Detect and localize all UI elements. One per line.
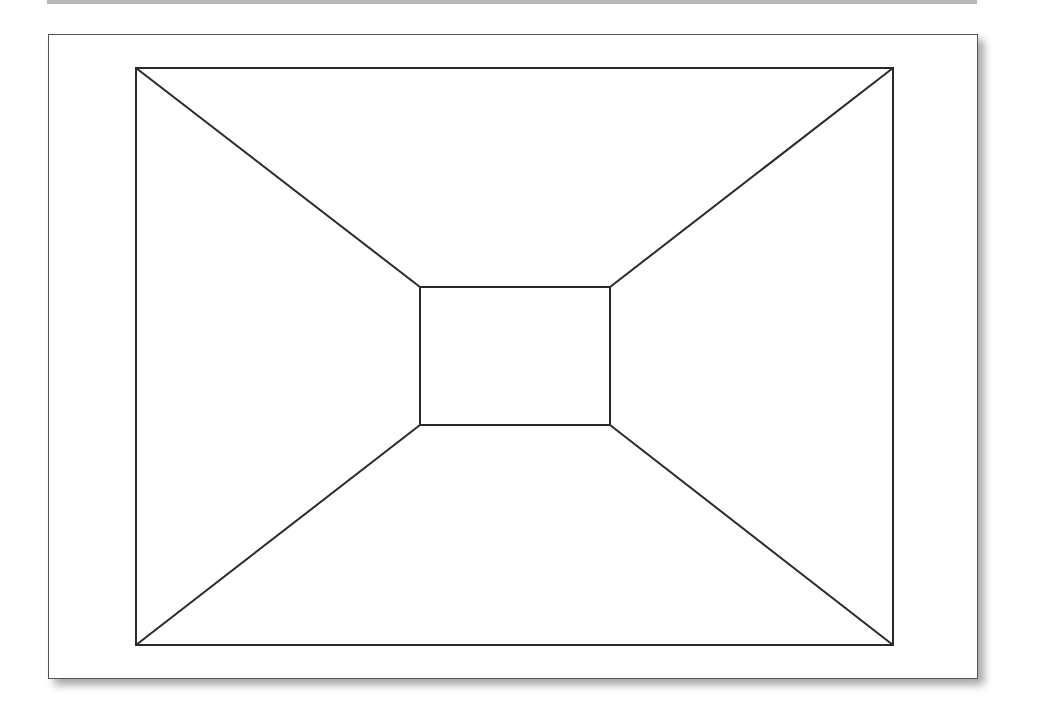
connector-top-right xyxy=(610,68,893,287)
connector-top-left xyxy=(136,68,420,287)
connector-bottom-left xyxy=(136,425,420,645)
inner-rectangle xyxy=(420,287,610,425)
perspective-diagram xyxy=(0,0,1037,724)
connector-bottom-right xyxy=(610,425,893,645)
